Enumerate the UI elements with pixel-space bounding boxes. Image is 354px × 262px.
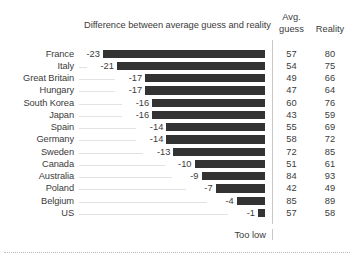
row-leader-line [79,79,115,80]
table-row: South Korea-166076 [0,97,354,109]
bar-value-label: -1 [229,208,255,218]
row-label-country: South Korea [0,98,74,108]
column-divider-tick [272,229,273,240]
row-label-country: Sweden [0,147,74,157]
row-label-country: Spain [0,122,74,132]
cell-avg-guess: 57 [274,208,309,218]
table-row: Italy-215475 [0,60,354,72]
table-row: Japan-164359 [0,109,354,121]
bar-value-label: -16 [123,110,149,120]
bar [103,50,265,58]
bar [173,148,265,156]
cell-reality: 61 [309,159,351,169]
bar-value-label: -10 [166,159,192,169]
row-label-country: Japan [0,110,74,120]
table-row: Spain-145569 [0,122,354,134]
row-label-country: Great Britain [0,73,74,83]
bar [145,86,265,94]
row-leader-line [79,165,165,166]
cell-reality: 85 [309,147,351,157]
bar [152,99,265,107]
row-label-country: France [0,49,74,59]
column-header-avg-line1: Avg. [274,12,309,22]
row-leader-line [79,202,207,203]
cell-avg-guess: 57 [274,49,309,59]
cell-reality: 49 [309,183,351,193]
cell-avg-guess: 42 [274,183,309,193]
cell-reality: 58 [309,208,351,218]
bar [195,160,266,168]
row-label-country: Australia [0,171,74,181]
bar [117,62,265,70]
chart-subtitle: Difference between average guess and rea… [84,20,270,30]
row-label-country: Belgium [0,196,74,206]
cell-avg-guess: 49 [274,73,309,83]
axis-note-too-low: Too low [186,230,266,240]
column-header-reality: Reality [309,24,351,34]
row-leader-line [79,153,143,154]
cell-reality: 76 [309,98,351,108]
row-leader-line [79,116,122,117]
bar-value-label: -17 [116,73,142,83]
cell-reality: 80 [309,49,351,59]
cell-reality: 72 [309,134,351,144]
cell-avg-guess: 84 [274,171,309,181]
table-row: Hungary-174764 [0,85,354,97]
row-leader-line [79,104,122,105]
cell-avg-guess: 85 [274,196,309,206]
chart-container: Difference between average guess and rea… [0,0,354,262]
table-row: US-15758 [0,207,354,219]
cell-avg-guess: 54 [274,61,309,71]
bar-value-label: -16 [123,98,149,108]
bar-value-label: -21 [88,61,114,71]
row-label-country: Hungary [0,85,74,95]
bar [166,123,265,131]
bottom-divider [4,252,350,253]
bar [237,197,265,205]
table-row: Sweden-137285 [0,146,354,158]
cell-reality: 64 [309,85,351,95]
cell-avg-guess: 60 [274,98,309,108]
cell-avg-guess: 43 [274,110,309,120]
cell-reality: 75 [309,61,351,71]
cell-avg-guess: 58 [274,134,309,144]
bar [145,74,265,82]
bar [258,209,265,217]
row-label-country: Poland [0,183,74,193]
cell-avg-guess: 51 [274,159,309,169]
bar-value-label: -7 [187,183,213,193]
cell-reality: 66 [309,73,351,83]
cell-reality: 93 [309,171,351,181]
column-header-avg-guess: guess [274,24,309,34]
row-leader-line [79,91,115,92]
bar-value-label: -14 [137,134,163,144]
table-row: Germany-145872 [0,134,354,146]
bar-value-label: -13 [144,147,170,157]
bar [152,111,265,119]
table-row: Canada-105161 [0,158,354,170]
table-row: France-235780 [0,48,354,60]
bar [216,184,265,192]
cell-reality: 89 [309,196,351,206]
row-label-country: US [0,208,74,218]
row-leader-line [79,140,136,141]
bar [166,135,265,143]
bar [202,172,265,180]
bar-value-label: -23 [74,49,100,59]
row-leader-line [79,67,87,68]
row-leader-line [79,177,172,178]
row-label-country: Canada [0,159,74,169]
table-row: Belgium-48589 [0,195,354,207]
row-leader-line [79,189,186,190]
cell-reality: 69 [309,122,351,132]
bar-value-label: -14 [137,122,163,132]
cell-reality: 59 [309,110,351,120]
row-leader-line [79,214,228,215]
cell-avg-guess: 55 [274,122,309,132]
cell-avg-guess: 72 [274,147,309,157]
table-row: Poland-74249 [0,183,354,195]
row-label-country: Italy [0,61,74,71]
bar-value-label: -4 [208,196,234,206]
cell-avg-guess: 47 [274,85,309,95]
bar-value-label: -9 [173,171,199,181]
